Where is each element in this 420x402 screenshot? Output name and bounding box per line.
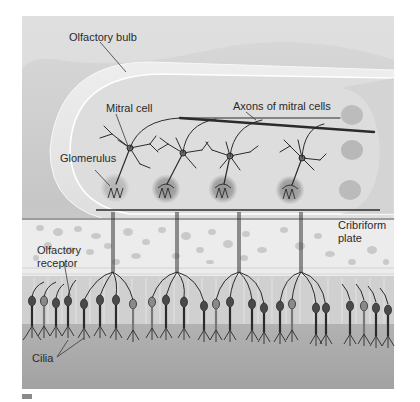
label-axons-of-mitral-cells: Axons of mitral cells: [233, 100, 331, 113]
olfactory-diagram: Olfactory bulb Mitral cell Axons of mitr…: [0, 0, 420, 402]
label-cilia: Cilia: [32, 352, 53, 365]
olfactory-epithelium: [22, 276, 394, 324]
mucus-layer: [22, 324, 394, 389]
label-cribriform-plate-line1: Cribriform: [338, 219, 386, 232]
diagram-canvas: [0, 0, 420, 402]
label-glomerulus: Glomerulus: [60, 152, 116, 165]
label-mitral-cell: Mitral cell: [106, 102, 152, 115]
label-olfactory-bulb: Olfactory bulb: [69, 31, 137, 44]
glomerulus-shade: [341, 105, 363, 125]
label-olfactory-receptor-line2: receptor: [37, 257, 77, 270]
label-olfactory-receptor-line1: Olfactory: [37, 244, 81, 257]
figure-marker: [22, 394, 32, 399]
label-cribriform-plate-line2: plate: [338, 232, 362, 245]
